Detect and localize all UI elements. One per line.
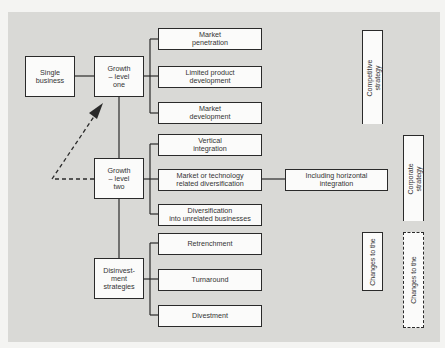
unrelated-diversification-box: Diversification into unrelated businesse…: [158, 204, 262, 226]
market-development-box: Market development: [158, 102, 262, 124]
disinvestment-strategies-box: Disinvest- ment strategies: [94, 258, 144, 299]
horizontal-integration-box: Including horizontal integration: [285, 169, 388, 191]
turnaround-box: Turnaround: [158, 269, 262, 291]
competitive-strategy-label: Competitive strategy: [365, 59, 380, 96]
single-business-box: Single business: [25, 56, 75, 97]
limited-product-development-box: Limited product development: [158, 66, 262, 88]
corporate-strategy-label: Corporate strategy: [406, 163, 421, 194]
changes-to-the-dashed-label: Changes to the: [410, 256, 418, 303]
changes-to-the-dashed-box: Changes to the: [403, 232, 424, 328]
corporate-strategy-label-box: Corporate strategy: [403, 135, 424, 221]
competitive-strategy-label-box: Competitive strategy: [362, 30, 383, 124]
retrenchment-box: Retrenchment: [158, 233, 262, 255]
changes-to-the-solid-box: Changes to the: [362, 232, 383, 291]
market-penetration-box: Market penetration: [158, 28, 262, 50]
market-technology-diversification-box: Market or technology related diversifica…: [158, 169, 262, 191]
changes-to-the-label: Changes to the: [369, 238, 377, 285]
vertical-integration-box: Vertical integration: [158, 134, 262, 156]
growth-level-two-box: Growth – level two: [94, 158, 144, 199]
divestment-box: Divestment: [158, 305, 262, 327]
growth-level-one-box: Growth – level one: [94, 56, 144, 97]
